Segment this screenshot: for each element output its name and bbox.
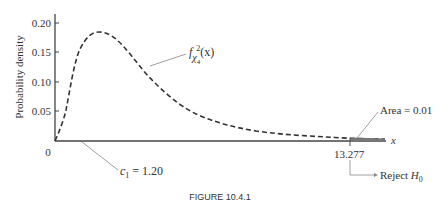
x-axis-label: x (390, 134, 396, 146)
critical-value-label: 13.277 (334, 148, 365, 160)
svg-text:c1 = 1.20: c1 = 1.20 (120, 164, 163, 180)
c1-annotation: c1 = 1.20 (82, 142, 163, 180)
svg-text:fχ42(x): fχ42(x) (189, 44, 214, 66)
reject-annotation: Reject H0 (350, 160, 423, 184)
figure-caption: FIGURE 10.4.1 (189, 192, 251, 202)
y-axis-label: Probability density (13, 35, 25, 119)
tail-area (350, 138, 385, 141)
curve-label: fχ42(x) (150, 44, 214, 66)
origin-label: 0 (45, 146, 51, 158)
chi-square-figure: 0.20 0.15 0.10 0.05 Probability density … (0, 0, 440, 213)
density-curve (55, 32, 385, 141)
ytick-label: 0.05 (32, 105, 52, 117)
ytick-label: 0.15 (32, 46, 52, 58)
svg-text:Reject H0: Reject H0 (380, 169, 423, 184)
ytick-label: 0.10 (32, 76, 52, 88)
area-annotation: Area = 0.01 (357, 104, 432, 138)
svg-text:Area = 0.01: Area = 0.01 (380, 104, 432, 116)
ytick-label: 0.20 (32, 17, 52, 29)
